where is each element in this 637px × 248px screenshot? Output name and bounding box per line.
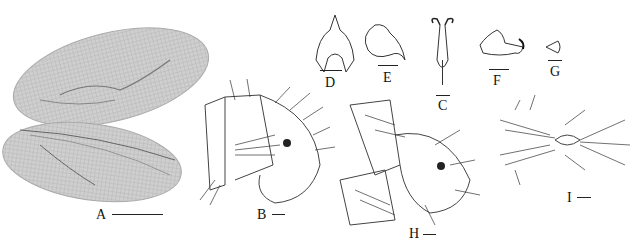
scale-bar-i	[577, 197, 591, 198]
panel-c-gonarcus-dorsal: D	[310, 10, 360, 90]
panel-label-g: G	[550, 65, 560, 79]
panel-f-gonapsis: F	[475, 25, 530, 85]
scale-bar-a	[112, 214, 163, 215]
panel-label-i: I	[567, 191, 572, 205]
panel-i-female-ventral: I	[495, 100, 635, 200]
female-lateral-drawing	[335, 95, 475, 245]
scale-bar-h	[423, 234, 436, 235]
scale-bar-b	[272, 214, 285, 215]
panel-label-f: F	[493, 74, 501, 88]
panel-d-gonarcus-lateral: E	[360, 15, 410, 85]
gonapsis-drawing	[475, 25, 530, 85]
parameres-drawing	[425, 15, 460, 100]
scale-bar-f	[489, 69, 509, 70]
scale-bar-d	[378, 65, 398, 66]
panel-label-a: A	[96, 208, 106, 222]
panel-label-d: E	[383, 71, 392, 85]
female-ventral-drawing	[495, 100, 635, 200]
panel-label-h: H	[409, 227, 419, 241]
panel-g-hypandrium: G	[540, 35, 575, 85]
panel-h-female-lateral: H	[335, 95, 475, 245]
panel-label-b: B	[257, 208, 266, 222]
panel-e-parameres: C	[425, 15, 460, 100]
scale-bar-g	[548, 60, 562, 61]
panel-a-wings: A	[0, 0, 210, 248]
panel-label-c: D	[325, 76, 335, 90]
panel-b-male-terminalia: B	[195, 85, 325, 230]
scale-bar-c	[320, 70, 342, 71]
